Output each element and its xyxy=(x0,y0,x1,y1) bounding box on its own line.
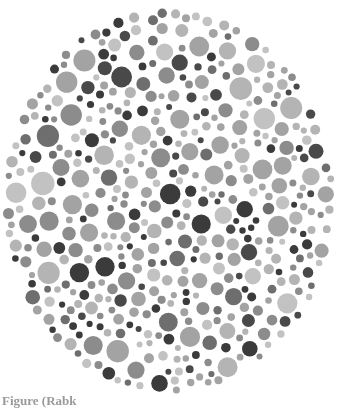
plate-dot xyxy=(157,23,168,34)
plate-dot xyxy=(6,182,27,203)
plate-dot xyxy=(262,82,273,93)
plate-dot xyxy=(151,117,159,125)
plate-dot xyxy=(183,298,190,305)
plate-dot xyxy=(56,71,77,92)
plate-dot xyxy=(6,230,13,237)
plate-dot xyxy=(86,116,92,122)
plate-dot xyxy=(100,82,108,90)
plate-dot xyxy=(265,193,273,201)
plate-dot xyxy=(201,186,207,192)
plate-dot xyxy=(97,323,104,330)
plate-dot xyxy=(60,315,69,324)
plate-dot xyxy=(107,340,129,362)
plate-dot xyxy=(136,382,143,389)
plate-dot xyxy=(271,100,278,107)
plate-dot xyxy=(325,206,333,214)
plate-dot xyxy=(226,225,235,234)
plate-dot xyxy=(50,65,59,74)
plate-dot xyxy=(194,63,201,70)
plate-dot xyxy=(84,336,103,355)
plate-dot xyxy=(103,367,116,380)
plate-dot xyxy=(169,170,177,178)
plate-dot xyxy=(291,202,297,208)
plate-dot xyxy=(318,186,334,202)
plate-dot xyxy=(120,31,131,42)
plate-dot xyxy=(274,92,281,99)
plate-dot xyxy=(183,213,190,220)
plate-dot xyxy=(136,326,142,332)
plate-dot xyxy=(165,369,171,375)
plate-dot xyxy=(99,118,106,125)
plate-dot xyxy=(146,340,152,346)
plate-dot xyxy=(242,329,248,335)
plate-dot xyxy=(246,101,252,107)
plate-dot xyxy=(257,353,263,359)
plate-dot xyxy=(192,246,199,253)
plate-dot xyxy=(180,308,188,316)
plate-dot xyxy=(300,185,306,191)
plate-dot xyxy=(99,107,106,114)
plate-dot xyxy=(315,244,329,258)
plate-dot xyxy=(192,273,207,288)
plate-dot xyxy=(148,259,156,267)
plate-dot xyxy=(279,141,293,155)
plate-dot xyxy=(148,36,158,46)
plate-dot xyxy=(144,353,154,363)
plate-dot xyxy=(218,60,224,66)
plate-dot xyxy=(51,116,57,122)
plate-dot xyxy=(242,286,249,293)
plate-dot xyxy=(182,199,191,208)
plate-dot xyxy=(62,227,76,241)
plate-dot xyxy=(105,296,111,302)
plate-dot xyxy=(241,244,257,260)
plate-dot xyxy=(107,205,113,211)
plate-dot xyxy=(146,91,157,102)
plate-dot xyxy=(164,334,175,345)
plate-dot xyxy=(28,280,36,288)
plate-dot xyxy=(244,235,252,243)
plate-dot xyxy=(187,379,194,386)
plate-dot xyxy=(153,180,161,188)
plate-dot xyxy=(107,212,125,230)
plate-dot xyxy=(158,296,166,304)
plate-dot xyxy=(288,74,296,82)
plate-dot xyxy=(193,113,200,120)
plate-dot xyxy=(24,244,32,252)
plate-dot xyxy=(145,167,157,179)
plate-dot xyxy=(141,201,147,207)
plate-dot xyxy=(96,91,104,99)
plate-dot xyxy=(262,133,268,139)
plate-dot xyxy=(151,375,168,392)
plate-dot xyxy=(44,286,51,293)
plate-dot xyxy=(8,221,15,228)
plate-dot xyxy=(180,327,200,347)
plate-dot xyxy=(240,303,249,312)
plate-dot xyxy=(73,50,95,72)
plate-dot xyxy=(85,133,99,147)
plate-dot xyxy=(142,149,148,155)
plate-dot xyxy=(29,272,35,278)
plate-dot xyxy=(223,72,231,80)
plate-dot xyxy=(308,208,315,215)
plate-dot xyxy=(289,180,296,187)
plate-dot xyxy=(127,362,144,379)
plate-dot xyxy=(16,168,24,176)
plate-dot xyxy=(127,243,133,249)
plate-dot xyxy=(177,221,186,230)
plate-dot xyxy=(59,255,69,265)
plate-dot xyxy=(118,272,135,289)
plate-dot xyxy=(78,313,86,321)
plate-dot xyxy=(240,110,249,119)
plate-dot xyxy=(53,242,65,254)
plate-dot xyxy=(189,37,209,57)
plate-dot xyxy=(150,141,157,148)
plate-dot xyxy=(129,45,144,60)
plate-dot xyxy=(296,255,304,263)
plate-dot xyxy=(290,227,296,233)
plate-dot xyxy=(97,313,104,320)
plate-dot xyxy=(129,222,140,233)
plate-dot xyxy=(141,234,147,240)
plate-dot xyxy=(186,365,194,373)
plate-dot xyxy=(131,25,141,35)
plate-dot xyxy=(113,18,123,28)
